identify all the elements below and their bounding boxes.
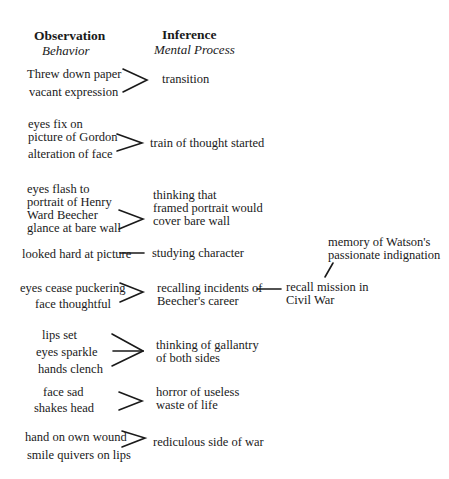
observation-text: smile quivers on lips (27, 449, 131, 462)
observation-text: lips set (42, 329, 77, 342)
observation-text: hands clench (38, 363, 103, 376)
converge-arrow-7 (119, 392, 142, 410)
converge-arrow-6a (112, 334, 143, 351)
memory-text: memory of Watson's passionate indignatio… (328, 236, 440, 262)
converge-arrow-6c (112, 351, 143, 366)
observation-text: eyes cease puckering (20, 282, 126, 295)
observation-subheader: Behavior (42, 44, 90, 57)
observation-text: alteration of face (28, 148, 113, 161)
observation-text: shakes head (34, 402, 94, 415)
observation-text: eyes flash to portrait of Henry Ward Bee… (27, 183, 112, 222)
observation-header: Observation (34, 29, 105, 42)
observation-text: face thoughtful (35, 298, 111, 311)
converge-arrow-2 (117, 134, 142, 151)
inference-text: rediculous side of war (153, 436, 264, 449)
converge-arrow-1 (123, 69, 147, 92)
observation-text: glance at bare wall (27, 222, 121, 235)
observation-text: Threw down paper (27, 68, 121, 81)
inference-header: Inference (162, 28, 216, 41)
observation-text: vacant expression (29, 86, 118, 99)
inference-text: horror of useless waste of life (156, 386, 239, 412)
inference-text: thinking of gallantry of both sides (156, 339, 259, 365)
inference-text: studying character (152, 247, 244, 260)
inference-text: recalling incidents of Beecher's career (157, 282, 263, 308)
further-inference-text: recall mission in Civil War (286, 281, 369, 307)
inference-subheader: Mental Process (154, 43, 235, 56)
observation-text: eyes fix on picture of Gordon (28, 118, 118, 144)
inference-text: transition (162, 73, 209, 86)
link-diagonal-memory (325, 263, 333, 277)
inference-text: train of thought started (150, 137, 264, 150)
observation-text: eyes sparkle (36, 346, 97, 359)
observation-text: face sad (43, 386, 84, 399)
observation-text: looked hard at picture (22, 248, 131, 261)
observation-text: hand on own wound (25, 431, 127, 444)
inference-text: thinking that framed portrait would cove… (153, 189, 263, 228)
converge-arrow-3 (119, 210, 143, 229)
